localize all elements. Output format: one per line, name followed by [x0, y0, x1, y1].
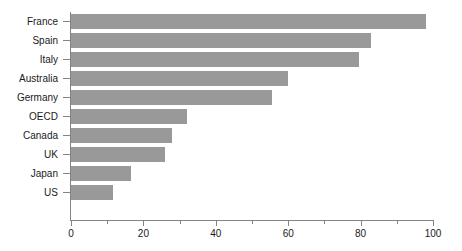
- x-tick-mark-20: [143, 221, 144, 226]
- y-tick-label-japan: Japan: [31, 164, 58, 183]
- x-tick-label-80: 80: [341, 228, 381, 240]
- bar-australia: [71, 71, 288, 86]
- y-tick-mark: [63, 116, 70, 117]
- y-tick-label-spain: Spain: [32, 31, 58, 50]
- x-tick-mark-40: [216, 221, 217, 226]
- y-axis-tick-labels: FranceSpainItalyAustraliaGermanyOECDCana…: [0, 12, 70, 220]
- y-tick-label-us: US: [44, 183, 58, 202]
- bar-canada: [71, 128, 172, 143]
- y-tick-mark: [63, 21, 70, 22]
- y-tick-mark: [63, 154, 70, 155]
- bar-italy: [71, 52, 359, 67]
- x-tick-mark-0: [71, 221, 72, 226]
- x-tick-label-60: 60: [268, 228, 308, 240]
- x-tick-mark-minor-70: [324, 221, 325, 224]
- y-tick-mark: [63, 59, 70, 60]
- x-tick-label-20: 20: [123, 228, 163, 240]
- y-tick-mark: [63, 192, 70, 193]
- bar-japan: [71, 166, 131, 181]
- bar-us: [71, 185, 113, 200]
- bar-france: [71, 14, 426, 29]
- x-tick-mark-minor-50: [252, 221, 253, 224]
- x-tick-mark-minor-30: [180, 221, 181, 224]
- y-tick-label-canada: Canada: [23, 126, 58, 145]
- x-tick-label-40: 40: [196, 228, 236, 240]
- y-tick-label-france: France: [27, 12, 58, 31]
- bar-uk: [71, 147, 165, 162]
- y-tick-mark: [63, 97, 70, 98]
- y-tick-mark: [63, 40, 70, 41]
- y-tick-label-germany: Germany: [17, 88, 58, 107]
- x-tick-label-100: 100: [413, 228, 453, 240]
- bar-chart: FranceSpainItalyAustraliaGermanyOECDCana…: [0, 0, 462, 251]
- bar-spain: [71, 33, 371, 48]
- bar-germany: [71, 90, 272, 105]
- bar-series: [71, 12, 433, 220]
- x-tick-mark-minor-10: [107, 221, 108, 224]
- bar-oecd: [71, 109, 187, 124]
- y-tick-label-australia: Australia: [19, 69, 58, 88]
- y-tick-label-italy: Italy: [40, 50, 58, 69]
- x-tick-mark-80: [361, 221, 362, 226]
- x-tick-mark-60: [288, 221, 289, 226]
- y-tick-mark: [63, 135, 70, 136]
- y-tick-label-oecd: OECD: [29, 107, 58, 126]
- y-tick-label-uk: UK: [44, 145, 58, 164]
- x-tick-mark-100: [433, 221, 434, 226]
- y-tick-mark: [63, 78, 70, 79]
- y-tick-mark: [63, 173, 70, 174]
- x-tick-mark-minor-90: [397, 221, 398, 224]
- x-tick-label-0: 0: [51, 228, 91, 240]
